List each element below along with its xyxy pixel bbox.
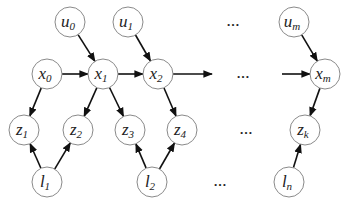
factor-graph-diagram: u0u1umx0x1x2xmz1z2z3z4zkl1l2ln … … … … bbox=[0, 0, 345, 201]
node-xm: xm bbox=[310, 59, 340, 89]
node-zk: zk bbox=[290, 115, 320, 145]
edge-l2-to-z3 bbox=[136, 144, 146, 168]
node-u0: u0 bbox=[55, 7, 85, 37]
node-u1: u1 bbox=[113, 7, 143, 37]
ellipsis-observation-row: … bbox=[240, 122, 253, 137]
edge-l2-to-z4 bbox=[159, 143, 174, 169]
edge-u1-to-x2 bbox=[135, 35, 150, 61]
node-z2: z2 bbox=[63, 115, 93, 145]
edge-l1-to-z2 bbox=[55, 143, 71, 169]
node-x2: x2 bbox=[143, 59, 173, 89]
node-z1: z1 bbox=[9, 115, 39, 145]
edge-u0-to-x1 bbox=[78, 35, 95, 62]
node-l1: l1 bbox=[32, 167, 62, 197]
node-z4: z4 bbox=[167, 115, 197, 145]
edge-x1-to-z3 bbox=[110, 88, 124, 117]
edge-x1-to-z2 bbox=[84, 88, 97, 117]
edge-l1-to-z1 bbox=[30, 144, 41, 169]
node-z3: z3 bbox=[115, 115, 145, 145]
node-x0: x0 bbox=[32, 59, 62, 89]
edge-um-to-xm bbox=[302, 35, 318, 61]
node-ln: ln bbox=[274, 167, 304, 197]
edge-ln-to-zk bbox=[293, 144, 300, 167]
edge-x0-to-z1 bbox=[30, 88, 42, 116]
ellipsis-state-row: … bbox=[237, 66, 250, 81]
node-x1: x1 bbox=[88, 59, 118, 89]
ellipsis-landmark-row: … bbox=[214, 174, 227, 189]
ellipsis-control-row: … bbox=[227, 14, 240, 29]
node-um: um bbox=[279, 7, 309, 37]
edge-x2-to-z4 bbox=[164, 88, 176, 116]
edge-xm-to-zk bbox=[310, 88, 320, 116]
node-l2: l2 bbox=[137, 167, 167, 197]
